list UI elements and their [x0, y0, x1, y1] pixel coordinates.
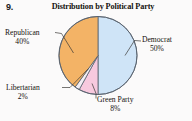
callout-libertarian-value: 2%: [6, 93, 40, 102]
callout-democrat: Democrat 50%: [142, 36, 172, 54]
callout-libertarian-label: Libertarian: [6, 83, 40, 92]
callout-libertarian: Libertarian 2%: [6, 84, 40, 102]
callout-green-party: Green Party 8%: [97, 96, 133, 114]
callout-green-party-label: Green Party: [97, 95, 133, 104]
pie-graphic: [0, 0, 192, 121]
callout-democrat-value: 50%: [142, 45, 172, 54]
pie-slice-democrat: [98, 17, 137, 95]
callout-green-party-value: 8%: [97, 105, 133, 114]
callout-republican-label: Republican: [5, 28, 40, 37]
callout-republican-value: 40%: [5, 38, 40, 47]
callout-republican: Republican 40%: [5, 29, 40, 47]
pie-chart-figure: 9. Distribution by Political Party Repub…: [0, 0, 192, 121]
callout-democrat-label: Democrat: [142, 35, 172, 44]
